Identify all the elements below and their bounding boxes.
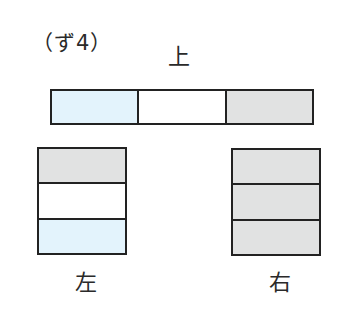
right-cell-2 <box>233 183 319 218</box>
label-left: 左 <box>66 271 106 295</box>
label-top: 上 <box>159 45 199 69</box>
left-cell-1 <box>39 149 125 182</box>
top-cell-1 <box>52 91 137 123</box>
left-column <box>37 147 127 255</box>
figure-title: （ず4） <box>32 26 112 56</box>
right-cell-3 <box>233 219 319 254</box>
label-right: 右 <box>260 271 300 295</box>
left-cell-2 <box>39 182 125 217</box>
right-cell-1 <box>233 150 319 183</box>
left-cell-3 <box>39 218 125 253</box>
top-cell-3 <box>225 91 312 123</box>
top-bar <box>50 89 314 125</box>
right-column <box>231 148 321 256</box>
top-cell-2 <box>137 91 224 123</box>
